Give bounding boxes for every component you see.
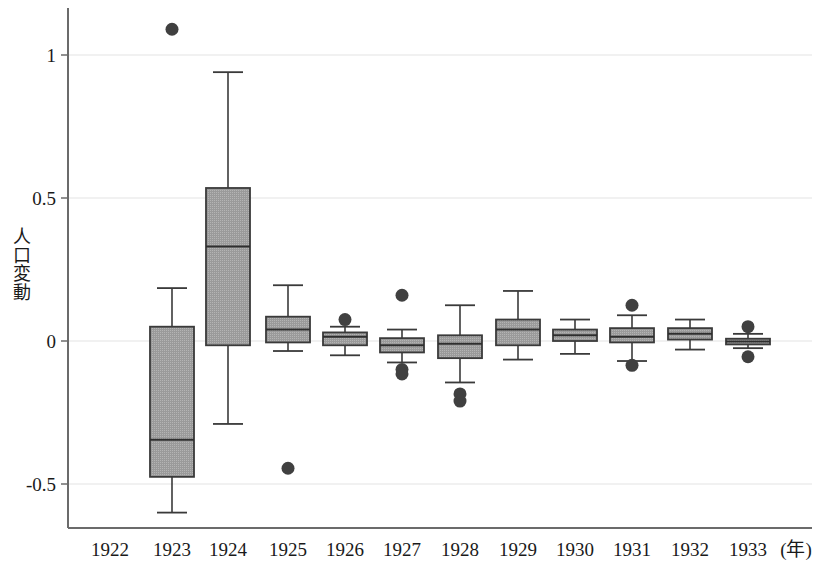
x-tick-label: 1926	[326, 539, 364, 560]
y-tick-label: 1	[47, 45, 57, 66]
x-tick-label: 1924	[209, 539, 248, 560]
box-plot-group[interactable]	[496, 291, 540, 360]
x-tick-label: 1931	[613, 539, 651, 560]
box-iqr	[610, 328, 654, 342]
plot-area: 10.50-0.51922192319241925192619271928192…	[0, 0, 818, 572]
x-axis-unit-label: (年)	[780, 539, 812, 561]
x-tick-label: 1922	[91, 539, 129, 560]
box-iqr	[323, 332, 367, 345]
box-plot-group[interactable]	[266, 285, 310, 475]
x-tick-label: 1933	[729, 539, 767, 560]
y-tick-label: -0.5	[26, 474, 56, 495]
outlier-point	[396, 367, 409, 380]
outlier-point	[742, 320, 755, 333]
outlier-point	[282, 462, 295, 475]
x-tick-label: 1932	[671, 539, 709, 560]
box-plot-group[interactable]	[206, 72, 250, 424]
box-plot-group[interactable]	[438, 305, 482, 407]
box-plot-group[interactable]	[726, 320, 770, 363]
box-plot-group[interactable]	[323, 313, 367, 355]
y-tick-label: 0	[47, 331, 57, 352]
box-iqr	[438, 335, 482, 358]
x-tick-label: 1928	[441, 539, 479, 560]
box-iqr	[206, 188, 250, 345]
box-plot-group[interactable]	[668, 320, 712, 350]
x-tick-label: 1925	[269, 539, 307, 560]
box-plot-group[interactable]	[610, 299, 654, 372]
box-plot-group[interactable]	[553, 320, 597, 354]
y-tick-label: 0.5	[32, 188, 56, 209]
outlier-point	[166, 23, 179, 36]
box-plot-chart: 人口変動 10.50-0.519221923192419251926192719…	[0, 0, 818, 572]
box-iqr	[496, 320, 540, 346]
box-plot-group[interactable]	[150, 23, 194, 513]
outlier-point	[626, 299, 639, 312]
x-tick-label: 1927	[383, 539, 421, 560]
box-plot-group[interactable]	[380, 289, 424, 381]
outlier-point	[339, 313, 352, 326]
outlier-point	[454, 395, 467, 408]
x-tick-label: 1930	[556, 539, 594, 560]
x-tick-label: 1923	[153, 539, 191, 560]
x-tick-label: 1929	[499, 539, 537, 560]
outlier-point	[626, 359, 639, 372]
outlier-point	[742, 350, 755, 363]
box-iqr	[150, 327, 194, 477]
outlier-point	[396, 289, 409, 302]
